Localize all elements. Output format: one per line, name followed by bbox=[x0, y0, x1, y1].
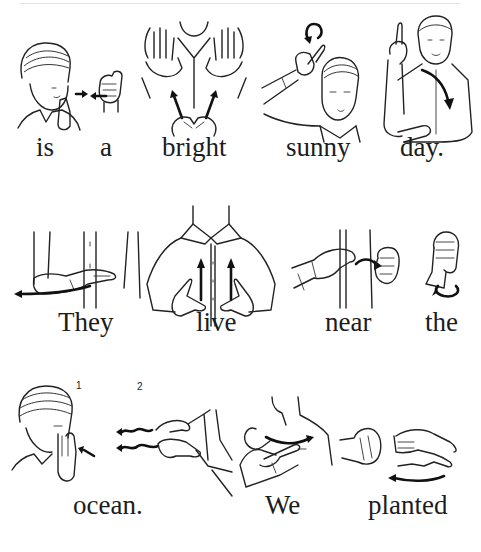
word-is: is bbox=[36, 132, 54, 162]
word-near: near bbox=[325, 307, 371, 337]
person-arm-arc-day-icon bbox=[378, 14, 473, 149]
word-bright: bright bbox=[162, 132, 227, 162]
step-number-2: 2 bbox=[137, 381, 143, 392]
word-sunny: sunny bbox=[286, 132, 351, 162]
sign-illustration-they bbox=[14, 228, 134, 308]
sign-illustration-day bbox=[378, 14, 473, 149]
word-they: They bbox=[58, 307, 113, 337]
sign-illustration-we bbox=[236, 395, 336, 490]
word-day: day. bbox=[400, 132, 444, 162]
word-planted: planted bbox=[368, 490, 447, 520]
word-live: live bbox=[196, 307, 237, 337]
hand-approaching-hand-icon bbox=[290, 228, 405, 313]
t-handshape-twist-icon bbox=[424, 228, 466, 303]
sign-illustration-ocean-step-2 bbox=[92, 400, 232, 500]
sign-illustration-ocean-step-1 bbox=[8, 382, 94, 486]
sign-illustration-a bbox=[88, 68, 128, 113]
fist-a-handshape-icon bbox=[88, 68, 128, 113]
person-hand-at-mouth-water-icon bbox=[8, 382, 94, 486]
sign-illustration-bright bbox=[138, 18, 250, 138]
sign-illustration-is bbox=[12, 38, 82, 133]
cropped-previous-text-line bbox=[20, 3, 460, 4]
sign-illustration-near bbox=[290, 228, 405, 313]
sign-illustration-planted bbox=[338, 420, 473, 482]
person-circling-finger-overhead-icon bbox=[260, 18, 360, 143]
hands-opening-upward-icon bbox=[138, 18, 250, 138]
word-we: We bbox=[265, 490, 300, 520]
hand-sowing-motion-icon bbox=[338, 420, 473, 482]
sign-illustration-sunny bbox=[260, 18, 360, 143]
sign-illustration-the bbox=[424, 228, 466, 303]
hands-waving-water-icon bbox=[92, 400, 232, 500]
hand-sweeping-sideways-icon bbox=[14, 228, 134, 308]
word-a: a bbox=[100, 132, 112, 162]
person-finger-to-lips-icon bbox=[12, 38, 82, 133]
word-the: the bbox=[425, 307, 458, 337]
word-ocean: ocean. bbox=[73, 490, 143, 520]
finger-arc-across-chest-icon bbox=[236, 395, 336, 490]
